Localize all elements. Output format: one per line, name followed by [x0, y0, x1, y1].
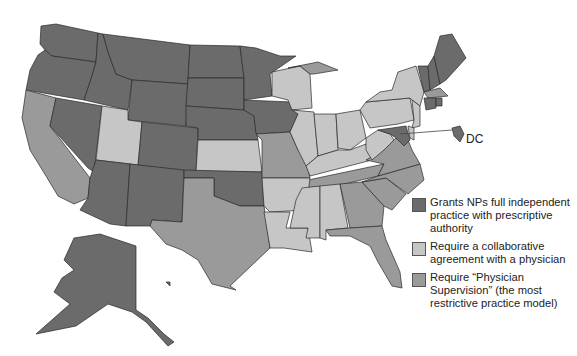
state-CO — [138, 122, 198, 172]
state-PA — [360, 98, 414, 128]
dc-label: DC — [466, 132, 483, 146]
state-WY — [128, 80, 188, 126]
legend-label: Require a collaborative agreement with a… — [430, 240, 577, 266]
state-NM — [126, 164, 184, 226]
legend-label: Require “Physician Supervision” (the mos… — [430, 271, 577, 310]
state-AK — [36, 234, 174, 346]
swatch-collaborative — [412, 242, 426, 256]
legend-item-collaborative: Require a collaborative agreement with a… — [412, 240, 577, 266]
state-ME — [434, 34, 466, 84]
state-RI — [436, 98, 442, 106]
legend-label: Grants NPs full independent practice wit… — [430, 196, 577, 235]
legend-item-supervision: Require “Physician Supervision” (the mos… — [412, 271, 577, 310]
swatch-supervision — [412, 273, 426, 287]
legend-item-independent: Grants NPs full independent practice wit… — [412, 196, 577, 235]
state-KS — [196, 140, 262, 172]
state-OH — [336, 110, 366, 150]
legend: Grants NPs full independent practice wit… — [412, 196, 577, 315]
state-HI — [166, 282, 170, 286]
state-IN — [314, 114, 338, 156]
state-ND — [188, 45, 244, 78]
swatch-independent — [412, 198, 426, 212]
state-FL — [326, 226, 402, 288]
state-SD — [186, 78, 244, 110]
state-CT — [424, 98, 436, 110]
state-DC — [452, 126, 464, 142]
